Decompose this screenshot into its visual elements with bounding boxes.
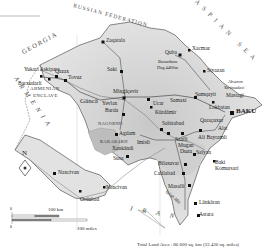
label-ali-bayramli: Ali Bayramli <box>198 135 227 141</box>
label-quba: Quba <box>165 50 177 56</box>
label-susa: Susa <box>113 156 123 162</box>
scale-km-zero: 0 <box>10 207 12 211</box>
label-kurdamir: Kürdämir <box>155 110 176 116</box>
label-nagorno: NAGORNO <box>98 122 123 127</box>
label-absheron-2: Yarimadasi <box>224 86 244 91</box>
label-calilabad: Calilabad <box>154 171 175 177</box>
label-ucar: Ucar <box>153 101 164 107</box>
label-ganca: Gäncä <box>80 98 98 105</box>
label-sabirabad: Sabirabad <box>162 121 184 127</box>
label-mugan-2: Duzu <box>180 149 192 155</box>
label-astara: Astara <box>199 212 213 218</box>
label-armenian-enclave-2: ENCLAVE <box>33 93 58 98</box>
label-xacmaz: Xacmaz <box>192 46 210 52</box>
label-baki-2: Komursari <box>215 166 239 172</box>
label-sumqayit: Sumqayit <box>195 92 216 98</box>
map-azerbaijan: RUSSIAN FEDERATION GEORGIA ARMENIA IRAN … <box>0 0 274 251</box>
label-masalli: Masalli <box>168 184 185 190</box>
label-lankaran: Länkäran <box>199 200 220 206</box>
label-barxudarli: Barxudarli <box>18 81 42 87</box>
label-ordubad: Ordubad <box>80 197 99 203</box>
label-xankandi: Xankändi <box>112 146 133 152</box>
scale-km-label: 100 km <box>48 207 63 212</box>
label-lokbatan: Lokbatan <box>209 105 230 111</box>
label-yevlax: Yevlax <box>102 101 117 107</box>
label-tovuz: Tovuz <box>68 75 82 81</box>
land-area-caption: Total Land Area : 86 600 sq. km (33 436 … <box>137 242 239 247</box>
label-siyazan: Siyazan <box>207 68 224 74</box>
label-alat: Alat <box>218 126 227 132</box>
label-qazax: Qazax <box>55 69 69 75</box>
label-baku: BAKU <box>236 108 256 115</box>
label-salyan: Salyan <box>196 150 211 156</box>
label-saatli: Saatli <box>175 137 188 143</box>
label-naxcivan: Naxcivan <box>58 170 79 176</box>
label-mincivan: Mincivan <box>106 185 127 191</box>
compass-north-label: N <box>22 150 27 157</box>
label-imisli: Imisli <box>137 140 150 146</box>
scale-mi-zero: 0 <box>10 225 12 229</box>
scale-bar <box>12 212 87 224</box>
label-bazarduzu-1: Bazarduzu <box>158 60 177 65</box>
label-armenian-enclave-1: ARMENIAN <box>30 86 59 91</box>
label-mastaga: Mastagi <box>226 93 244 99</box>
label-zaqatala: Zaqatala <box>106 38 125 44</box>
scale-mi-label: 100 miles <box>77 226 97 231</box>
label-saki: Saki <box>107 67 117 73</box>
label-agdam: Agdam <box>119 131 135 137</box>
label-karabakh: KARABAKH <box>100 140 128 145</box>
label-samaxi: Samaxi <box>170 98 187 104</box>
label-bilasuvar: Bilasuvar <box>158 161 179 167</box>
label-bazarduzu-2: Dag 4466m <box>157 66 178 71</box>
label-qaracuxur: Qaraçuxur <box>200 118 223 124</box>
label-barda: Barda <box>105 108 118 114</box>
label-mingacevir: Mingäçevir <box>113 89 138 95</box>
label-absheron-1: Abseron <box>228 80 243 85</box>
compass-rose <box>19 160 31 176</box>
